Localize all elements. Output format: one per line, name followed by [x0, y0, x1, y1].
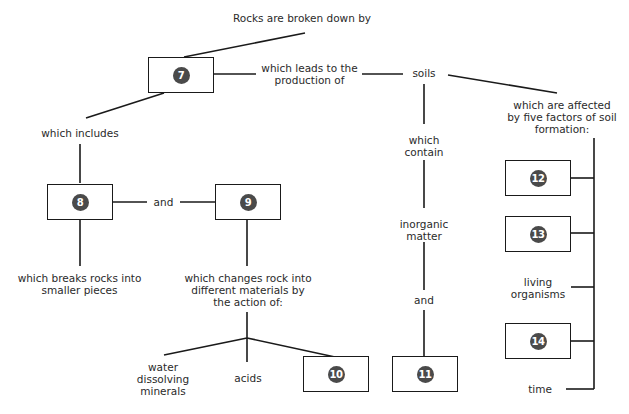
- answer-box-10[interactable]: 10: [303, 356, 369, 392]
- and-label-8-9: and: [147, 196, 180, 208]
- answer-box-14[interactable]: 14: [505, 323, 571, 359]
- and-label-11: and: [408, 294, 440, 306]
- concept-map: Rocks are broken down by 7 which leads t…: [0, 0, 629, 414]
- leads-to-label: which leads to the production of: [257, 62, 362, 86]
- number-badge-13: 13: [530, 226, 547, 243]
- includes-label: which includes: [30, 127, 130, 139]
- number-badge-10: 10: [328, 366, 345, 383]
- number-badge-11: 11: [417, 366, 434, 383]
- number-badge-9: 9: [240, 194, 257, 211]
- soils-label: soils: [404, 67, 444, 79]
- breaks-label: which breaks rocks into smaller pieces: [12, 272, 147, 296]
- answer-box-8[interactable]: 8: [47, 184, 113, 220]
- number-badge-7: 7: [173, 67, 190, 84]
- contain-label: which contain: [399, 134, 449, 158]
- inorganic-label: inorganic matter: [392, 218, 456, 242]
- number-badge-14: 14: [530, 333, 547, 350]
- title-label: Rocks are broken down by: [227, 12, 377, 24]
- changes-label: which changes rock into different materi…: [182, 272, 314, 308]
- affected-label: which are affected by five factors of so…: [502, 99, 622, 135]
- answer-box-11[interactable]: 11: [392, 356, 458, 392]
- living-organisms-label: living organisms: [505, 276, 571, 300]
- answer-box-13[interactable]: 13: [505, 216, 571, 252]
- time-label: time: [520, 383, 560, 395]
- water-label: water dissolving minerals: [134, 361, 192, 397]
- answer-box-7[interactable]: 7: [148, 57, 214, 93]
- number-badge-8: 8: [72, 194, 89, 211]
- answer-box-9[interactable]: 9: [215, 184, 281, 220]
- acids-label: acids: [230, 372, 266, 384]
- number-badge-12: 12: [530, 170, 547, 187]
- answer-box-12[interactable]: 12: [505, 160, 571, 196]
